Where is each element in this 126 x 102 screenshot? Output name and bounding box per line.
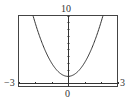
x-max-label: 3: [120, 78, 125, 88]
y-max-label: 10: [61, 4, 71, 14]
x-min-label: −3: [4, 78, 15, 88]
function-plot: [0, 0, 126, 102]
origin-label: 0: [65, 89, 70, 99]
